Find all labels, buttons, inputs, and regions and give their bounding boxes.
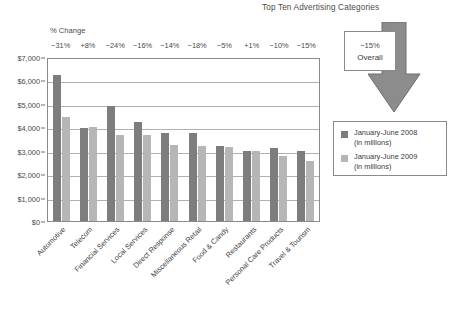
percent-change-value: +8% [74, 40, 101, 51]
y-axis-tick-mark [41, 104, 45, 105]
percent-change-value: −15% [293, 40, 320, 51]
overall-label: Overall [357, 53, 382, 62]
y-axis: $7,000$6,000$5,000$4,000$3,000$2,000$1,0… [0, 52, 45, 228]
percent-change-value: −16% [129, 40, 156, 51]
y-axis-tick-mark [41, 58, 45, 59]
legend-label-line1: January-June 2009 [354, 152, 417, 162]
y-axis-tick-mark [41, 128, 45, 129]
bar-2009 [170, 145, 178, 221]
bar-2008 [134, 122, 142, 222]
bar-2008 [80, 128, 88, 221]
y-axis-tick-label: $1,000 [17, 194, 40, 203]
percent-change-value: −24% [102, 40, 129, 51]
bar-2008 [243, 151, 251, 221]
y-axis-tick-label: $0 [32, 218, 40, 227]
bar-group [48, 59, 75, 221]
legend-item: January-June 2009(in millions) [341, 152, 440, 171]
bar-group [238, 59, 265, 221]
y-axis-tick-label: $3,000 [17, 147, 40, 156]
x-axis-label-slot: Financial Services [102, 224, 129, 320]
y-axis-tick-mark [41, 222, 45, 223]
y-axis-tick-mark [41, 198, 45, 199]
bar-2008 [270, 148, 278, 221]
bar-group [211, 59, 238, 221]
y-axis-tick-label: $6,000 [17, 77, 40, 86]
bar-2008 [107, 106, 115, 221]
bar-2009 [198, 146, 206, 221]
y-axis-tick-mark [41, 151, 45, 152]
legend-label: January-June 2009(in millions) [354, 152, 417, 171]
legend-label-line2: (in millions) [354, 162, 417, 172]
chart-legend: January-June 2008(in millions)January-Ju… [333, 121, 447, 176]
overall-change-box: −15% Overall [344, 31, 396, 71]
x-axis-category-labels: AutomotiveTelecomFinancial ServicesLocal… [47, 224, 320, 320]
x-axis-label-slot: Travel & Tourism [293, 224, 320, 320]
percent-change-value: −10% [265, 40, 292, 51]
percent-change-value: −18% [183, 40, 210, 51]
bar-group [156, 59, 183, 221]
percent-change-value: −14% [156, 40, 183, 51]
percent-change-value: −5% [211, 40, 238, 51]
bar-2009 [143, 135, 151, 221]
x-axis-label-slot: Personal Care Products [265, 224, 292, 320]
bar-2008 [297, 151, 305, 221]
x-axis-label-slot: Miscellaneous Retail [184, 224, 211, 320]
bar-2009 [225, 147, 233, 221]
overall-change-callout: −15% Overall [368, 22, 424, 114]
x-axis-label-slot: Automotive [47, 224, 74, 320]
bar-2008 [161, 133, 169, 221]
bar-2009 [252, 151, 260, 221]
bar-2009 [89, 127, 97, 221]
percent-change-value: +1% [238, 40, 265, 51]
bar-group [129, 59, 156, 221]
legend-label-line2: (in millions) [354, 138, 417, 148]
bar-2009 [306, 161, 314, 221]
legend-item: January-June 2008(in millions) [341, 128, 440, 147]
y-axis-tick-label: $2,000 [17, 171, 40, 180]
bar-group [183, 59, 210, 221]
series-2009-swatch [341, 155, 348, 162]
legend-label: January-June 2008(in millions) [354, 128, 417, 147]
y-axis-tick-label: $5,000 [17, 100, 40, 109]
bar-group [75, 59, 102, 221]
bar-2008 [53, 75, 61, 221]
chart-title: Top Ten Advertising Categories [262, 3, 379, 12]
percent-change-row: −31%+8%−24%−16%−14%−18%−5%+1%−10%−15% [47, 40, 320, 51]
bar-groups [48, 59, 319, 221]
y-axis-tick-label: $4,000 [17, 124, 40, 133]
bar-group [102, 59, 129, 221]
percent-change-header: % Change [50, 26, 85, 35]
bar-2009 [279, 156, 287, 221]
bar-2009 [116, 135, 124, 221]
legend-label-line1: January-June 2008 [354, 128, 417, 138]
bar-2008 [189, 133, 197, 221]
percent-change-value: −31% [47, 40, 74, 51]
bar-2009 [62, 117, 70, 221]
x-axis-category-label: Automotive [34, 225, 67, 258]
bar-group [292, 59, 319, 221]
bar-group [265, 59, 292, 221]
bar-2008 [216, 146, 224, 221]
y-axis-tick-label: $7,000 [17, 54, 40, 63]
series-2008-swatch [341, 131, 348, 138]
overall-percent: −15% [360, 41, 380, 50]
y-axis-tick-mark [41, 81, 45, 82]
advertising-categories-chart-figure: Top Ten Advertising Categories % Change … [0, 0, 450, 323]
y-axis-tick-mark [41, 175, 45, 176]
